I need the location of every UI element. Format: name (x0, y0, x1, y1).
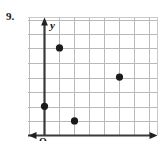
coordinate-graph: y x O (28, 17, 158, 141)
graph-svg: y x O (28, 17, 158, 141)
data-point (56, 44, 63, 51)
y-axis-label: y (48, 19, 55, 31)
problem-number-label: 9. (6, 11, 14, 22)
origin-label: O (39, 136, 47, 141)
data-point (71, 117, 78, 124)
x-axis-label: x (147, 137, 154, 141)
data-point (41, 103, 48, 110)
data-point (116, 74, 123, 81)
figure-container: 9. (0, 0, 162, 148)
